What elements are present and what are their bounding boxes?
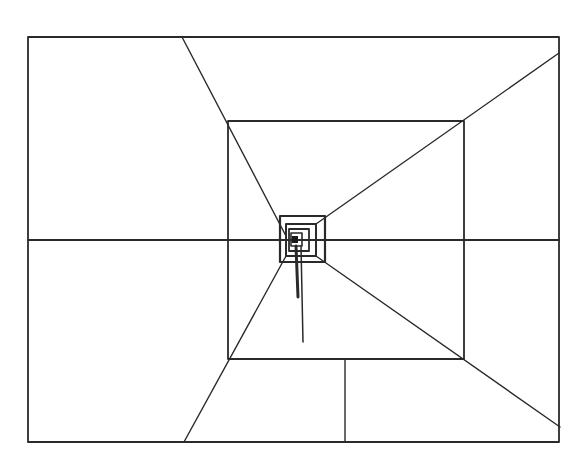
tunnel-diagram (0, 0, 582, 465)
radial-line-top-right (316, 53, 559, 224)
radial-line-bottom-left (184, 256, 286, 442)
center-stems (296, 246, 303, 342)
radial-line-top-left (182, 37, 286, 236)
center-stem (296, 246, 298, 297)
center-stem (301, 246, 303, 342)
vanishing-core (292, 236, 298, 243)
radial-line-bottom-right (316, 256, 560, 427)
